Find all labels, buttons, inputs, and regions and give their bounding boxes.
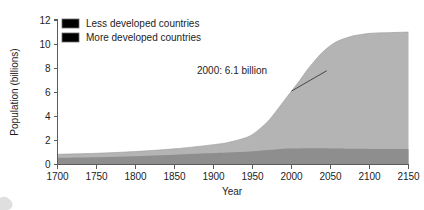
x-tick-label-2050: 2050 bbox=[319, 171, 342, 182]
x-tick-label-2150: 2150 bbox=[397, 171, 420, 182]
y-tick-label-0: 0 bbox=[45, 159, 51, 170]
population-area-chart: 024681012 170017501800185019001950200020… bbox=[0, 0, 424, 210]
x-tick-label-1900: 1900 bbox=[202, 171, 225, 182]
x-tick-label-1850: 1850 bbox=[163, 171, 186, 182]
legend-label-more-developed: More developed countries bbox=[86, 32, 201, 43]
x-tick-label-2000: 2000 bbox=[280, 171, 303, 182]
x-tick-label-1800: 1800 bbox=[124, 171, 147, 182]
x-tick-label-2100: 2100 bbox=[358, 171, 381, 182]
chart-figure: 024681012 170017501800185019001950200020… bbox=[0, 0, 424, 210]
legend-swatch-less-developed bbox=[62, 19, 79, 28]
x-tick-label-1950: 1950 bbox=[241, 171, 264, 182]
x-tick-label-1700: 1700 bbox=[46, 171, 69, 182]
y-tick-label-6: 6 bbox=[45, 87, 51, 98]
y-tick-label-2: 2 bbox=[45, 135, 51, 146]
y-tick-label-4: 4 bbox=[45, 111, 51, 122]
annotation-label: 2000: 6.1 billion bbox=[197, 65, 267, 76]
y-axis-title: Population (billions) bbox=[9, 48, 20, 135]
x-axis-title: Year bbox=[222, 186, 243, 197]
x-tick-label-1750: 1750 bbox=[85, 171, 108, 182]
y-tick-label-10: 10 bbox=[39, 39, 51, 50]
legend-swatch-more-developed bbox=[62, 33, 79, 42]
y-tick-label-12: 12 bbox=[39, 15, 51, 26]
legend-label-less-developed: Less developed countries bbox=[86, 18, 199, 29]
y-tick-label-8: 8 bbox=[45, 63, 51, 74]
